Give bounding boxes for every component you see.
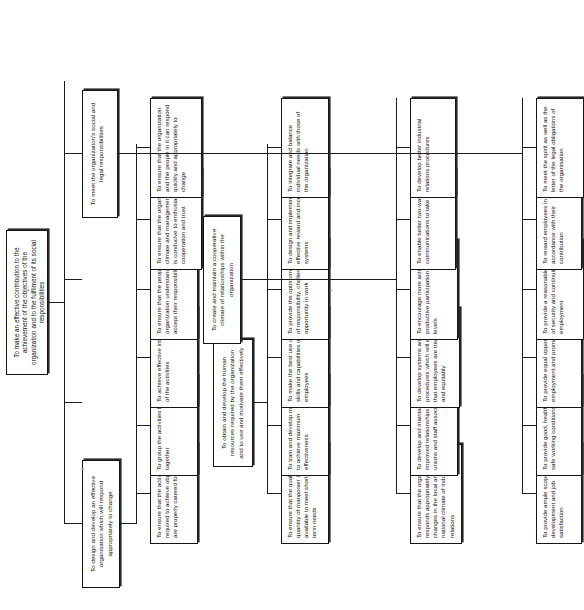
connector-leaf-1-6 (136, 147, 150, 148)
connector-leaf-1-1 (136, 493, 150, 494)
connector-leaf-3-6 (396, 147, 410, 148)
connector-leaf-4-4 (522, 289, 536, 290)
connector-leaf-4-2 (522, 425, 536, 426)
connector-branch-bus (64, 81, 65, 524)
scan-speck-1 (330, 289, 333, 292)
connector-leaf-4-5 (522, 219, 536, 220)
connector-branch-3-stem (64, 279, 82, 280)
connector-leaf-1-3 (136, 357, 150, 358)
connector-leaf-1-4 (136, 289, 150, 290)
connector-leaf-1-5 (136, 219, 150, 220)
connector-branch-2-down (253, 402, 267, 403)
connector-leaf-2-4 (267, 289, 281, 290)
connector-branch-2-bus (267, 144, 268, 403)
leaf-node-3-6[interactable]: To develop better industrial relations p… (410, 98, 456, 198)
connector-branch-1-stem (64, 523, 82, 524)
leaf-node-2-6[interactable]: To integrate and balance individual need… (281, 98, 329, 198)
scan-speck-2 (80, 468, 85, 470)
connector-branch-4-link (118, 153, 522, 154)
connector-branch-3-link (241, 279, 396, 280)
branch-node-human-resources[interactable]: To obtain and develop the human resource… (213, 339, 253, 467)
connector-leaf-2-6 (267, 147, 281, 148)
connector-leaf-4-6 (522, 147, 536, 148)
leaf-node-4-6[interactable]: To meet the spirit as well as the letter… (536, 98, 584, 198)
connector-branch-1-bus (136, 144, 137, 524)
connector-leaf-2-2 (267, 425, 281, 426)
connector-branch-4-bus (522, 98, 523, 494)
branch-node-social-legal[interactable]: To meet the organization's social and le… (82, 90, 118, 218)
connector-leaf-3-4 (396, 289, 410, 290)
connector-leaf-3-2 (396, 425, 410, 426)
connector-leaf-4-1 (522, 493, 536, 494)
connector-branch-4-stem (64, 153, 82, 154)
connector-leaf-4-3 (522, 357, 536, 358)
connector-branch-3-bus (396, 98, 397, 494)
connector-leaf-2-3 (267, 357, 281, 358)
connector-leaf-2-1-stem (267, 493, 281, 494)
root-node[interactable]: To make an effective contribution to the… (6, 230, 48, 375)
branch-node-cooperative-climate[interactable]: To create and maintain a cooperative cli… (203, 216, 241, 344)
connector-root-stem (48, 302, 64, 303)
connector-leaf-2-5 (267, 219, 281, 220)
leaf-node-1-6[interactable]: To ensure that the organization and the … (150, 98, 202, 198)
connector-leaf-1-2 (136, 425, 150, 426)
connector-branch-2-bus-left (267, 403, 268, 494)
connector-leaf-3-1 (396, 493, 410, 494)
connector-branch-1-down (120, 523, 136, 524)
connector-leaf-3-3 (396, 357, 410, 358)
connector-branch-2-stem (64, 402, 82, 403)
connector-leaf-3-5 (396, 219, 410, 220)
branch-node-organisation-design[interactable]: To design and develop an effective organ… (82, 460, 120, 588)
